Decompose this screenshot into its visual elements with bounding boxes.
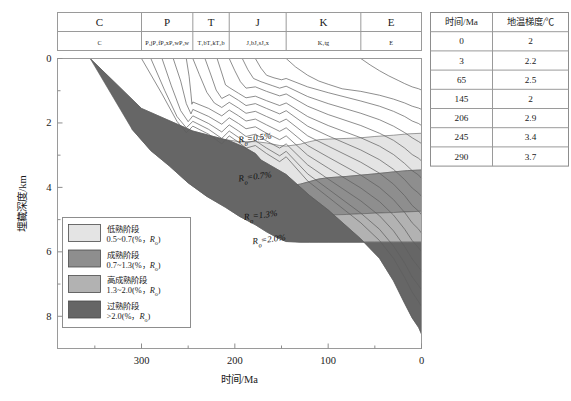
strat-row1-frame [58,13,422,32]
x-tick-label: 100 [320,355,336,366]
table-cell-time: 290 [455,152,469,162]
geothermal-gradient-table: 时间/Ma地温梯度/℃0232.2652.514522062.92453.429… [431,13,569,167]
strat-system-label: E [388,16,395,28]
legend-swatch [69,250,101,267]
figure-svg: CPTJKECP₁jP₁fP₂xP₂wP₃wT₁bT₂kT₃bJ₁bJ₂sJ₃x… [0,0,571,401]
strat-system-label: J [256,16,261,28]
legend-swatch [69,276,101,293]
table-cell-time: 0 [459,36,464,46]
table-header-cell: 时间/Ma [445,16,478,27]
y-tick-label: 6 [46,246,51,257]
legend-stage-name: 成熟阶段 [107,250,140,260]
maturity-legend: 低熟阶段0.5~0.7(%，Ro)成熟阶段0.7~1.3(%，Ro)高成熟阶段1… [63,218,191,328]
strat-system-label: P [164,16,170,28]
table-cell-gradient: 3.4 [525,132,537,142]
legend-stage-name: 高成熟阶段 [107,275,148,285]
burial-curve [255,59,421,126]
strat-system-label: T [208,16,215,28]
table-cell-time: 206 [455,113,469,123]
strat-system-label: K [320,16,328,28]
x-tick-label: 200 [227,355,243,366]
burial-history-figure: CPTJKECP₁jP₁fP₂xP₂wP₃wT₁bT₂kT₃bJ₁bJ₂sJ₃x… [0,0,571,401]
strat-row2-frame [58,32,422,51]
strat-formation-label: E [389,39,393,46]
strat-formation-label: J₁bJ₂sJ₃x [247,39,270,46]
burial-curve [361,59,422,91]
y-tick-label: 8 [46,311,51,322]
y-tick-label: 0 [46,53,51,64]
x-tick-label: 0 [419,355,424,366]
table-cell-gradient: 2.9 [525,113,537,123]
table-cell-gradient: 2.5 [525,75,537,85]
ro-contour-label: Ro=2.0% [251,232,287,249]
burial-curve [286,59,421,110]
legend-swatch [69,225,101,242]
table-header-cell: 地温梯度/℃ [507,16,555,27]
table-cell-gradient: 2.2 [525,56,537,66]
strat-formation-label: K₁tg [318,39,329,46]
legend-stage-name: 低熟阶段 [107,224,140,234]
table-cell-time: 65 [457,75,467,85]
table-cell-gradient: 3.7 [525,152,537,162]
y-tick-label: 2 [46,117,51,128]
strat-formation-label: C [97,39,101,46]
stratigraphy-header: CPTJKECP₁jP₁fP₂xP₂wP₃wT₁bT₂kT₃bJ₁bJ₂sJ₃x… [58,13,422,51]
legend-stage-name: 过熟阶段 [107,301,140,311]
strat-formation-label: T₁bT₂kT₃b [197,39,224,46]
x-axis-title: 时间/Ma [221,373,258,385]
legend-swatch [69,301,101,318]
strat-system-label: C [96,16,103,28]
table-cell-time: 3 [459,56,464,66]
y-axis-title: 埋藏深度/km [16,175,28,231]
table-cell-gradient: 2 [528,36,533,46]
x-tick-label: 300 [134,355,150,366]
table-cell-time: 145 [455,94,469,104]
strat-formation-label: P₁jP₁fP₂xP₂wP₃w [145,39,189,46]
table-cell-time: 245 [455,132,469,142]
table-cell-gradient: 2 [528,94,533,104]
y-tick-label: 4 [46,182,52,193]
